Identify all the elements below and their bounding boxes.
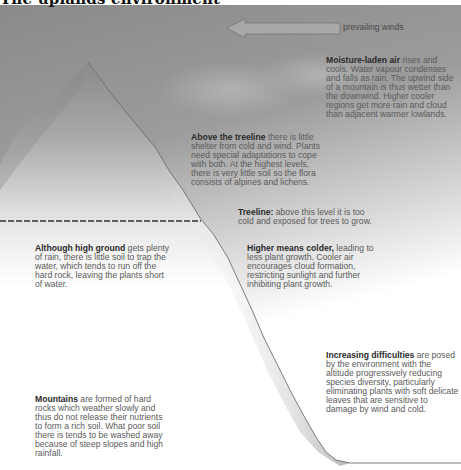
- annotation-body: rises and cools. Water vapour condenses …: [326, 55, 453, 119]
- annotation-body: are posed by the environment with the al…: [326, 350, 458, 414]
- annotation-body: are formed of hard rocks which weather s…: [35, 394, 163, 458]
- annotation-above-treeline: Above the treeline there is little shelt…: [191, 133, 326, 187]
- annotation-moisture: Moisture-laden air rises and cools. Wate…: [326, 56, 461, 119]
- page-title: The uplands environment: [0, 0, 220, 8]
- annotation-high-ground: Although high ground gets plenty of rain…: [35, 244, 170, 289]
- annotation-difficulties: Increasing difficulties are posed by the…: [326, 351, 461, 414]
- prevailing-winds-label: prevailing winds: [343, 22, 403, 32]
- annotation-body: there is little shelter from cold and wi…: [191, 132, 320, 187]
- annotation-higher-colder: Higher means colder, leading to less pla…: [247, 244, 377, 289]
- annotation-mountains: Mountains are formed of hard rocks which…: [35, 395, 170, 458]
- uplands-diagram: The uplands environment prevailing winds…: [0, 0, 461, 470]
- annotation-treeline: Treeline: above this level it is too col…: [238, 208, 378, 226]
